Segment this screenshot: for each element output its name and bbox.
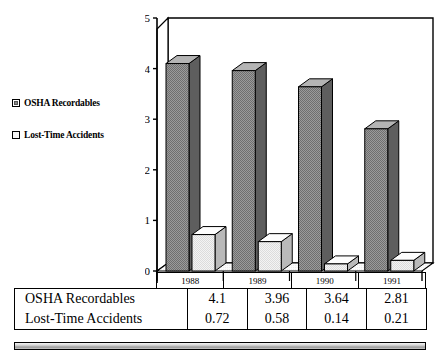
- table-cell-lost-1989: 0.58: [247, 309, 307, 329]
- table-cell-lost-1990: 0.14: [307, 309, 367, 329]
- legend-swatch-lost-time-accidents: [12, 131, 20, 139]
- year-header-1991: 1991: [358, 273, 425, 289]
- table-rowlabel-lost-time-accidents: Lost-Time Accidents: [15, 309, 188, 329]
- table-row-osha-recordables: OSHA Recordables 4.1 3.96 3.64 2.81: [15, 289, 426, 309]
- table-rowlabel-osha-recordables: OSHA Recordables: [15, 289, 188, 309]
- table-cell-osha-1991: 2.81: [366, 289, 426, 309]
- data-table: OSHA Recordables 4.1 3.96 3.64 2.81 Lost…: [14, 288, 427, 330]
- y-tick-label-1: 1: [145, 214, 150, 226]
- bar-osha-recordables-1990: [299, 79, 333, 271]
- y-axis: 012345: [145, 12, 157, 283]
- bar-osha-recordables-1991: [365, 121, 399, 271]
- year-header-strip: 1988 1989 1990 1991: [156, 272, 426, 289]
- y-tick-label-3: 3: [145, 113, 151, 125]
- y-tick-label-5: 5: [145, 12, 151, 24]
- year-header-1989: 1989: [224, 273, 291, 289]
- year-header-1990: 1990: [291, 273, 358, 289]
- legend-swatch-osha-recordables: [12, 99, 20, 107]
- bar-lost-time-accidents-1989: [258, 234, 292, 271]
- table-row-lost-time-accidents: Lost-Time Accidents 0.72 0.58 0.14 0.21: [15, 309, 426, 329]
- legend-item-osha-recordables: OSHA Recordables: [12, 96, 142, 110]
- legend-item-lost-time-accidents: Lost-Time Accidents: [12, 128, 142, 142]
- table-cell-lost-1988: 0.72: [188, 309, 248, 329]
- legend-label-osha-recordables: OSHA Recordables: [24, 98, 100, 108]
- table-cell-lost-1991: 0.21: [366, 309, 426, 329]
- chart-legend: OSHA Recordables Lost-Time Accidents: [12, 96, 142, 160]
- year-header-1988: 1988: [157, 273, 224, 289]
- plot-area: 012345: [145, 5, 440, 290]
- bottom-decorative-rule: [14, 342, 426, 350]
- y-tick-label-0: 0: [145, 265, 151, 277]
- y-tick-label-4: 4: [145, 63, 151, 75]
- y-tick-label-2: 2: [145, 164, 150, 176]
- table-cell-osha-1990: 3.64: [307, 289, 367, 309]
- chart-figure: OSHA Recordables Lost-Time Accidents: [0, 0, 440, 354]
- legend-label-lost-time-accidents: Lost-Time Accidents: [24, 130, 104, 140]
- bar-lost-time-accidents-1988: [192, 227, 226, 271]
- bar-chart-svg: 012345: [145, 5, 440, 290]
- table-cell-osha-1988: 4.1: [188, 289, 248, 309]
- table-cell-osha-1989: 3.96: [247, 289, 307, 309]
